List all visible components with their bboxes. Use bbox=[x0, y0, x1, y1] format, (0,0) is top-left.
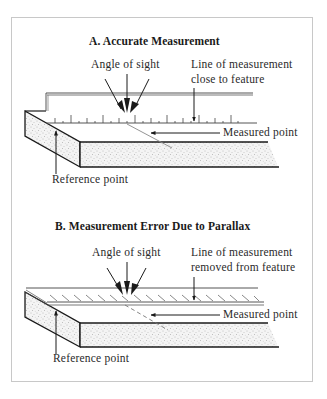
panel-b-line-label-1: Line of measurement bbox=[191, 246, 293, 259]
panel-b-title: B. Measurement Error Due to Parallax bbox=[55, 220, 250, 233]
ruler-on-edge bbox=[46, 93, 257, 123]
workpiece-front-face bbox=[80, 142, 278, 167]
panel-b-measured-label: Measured point bbox=[223, 308, 298, 321]
panel-a-angle-label: Angle of sight bbox=[91, 58, 160, 71]
reference-block-end-face bbox=[25, 111, 80, 167]
parallax-diagram: A. Accurate Measurement Angle of sight L… bbox=[0, 0, 327, 399]
angle-of-sight-arrows-b bbox=[107, 262, 146, 295]
panel-a-reference-label: Reference point bbox=[52, 173, 128, 186]
reference-block-end-face-b bbox=[25, 292, 80, 347]
panel-a-drawing bbox=[25, 74, 279, 174]
panel-b-reference-label: Reference point bbox=[53, 352, 129, 365]
panel-a-line-label-2: close to feature bbox=[191, 73, 264, 86]
panel-b-line-label-2: removed from feature bbox=[191, 261, 295, 274]
panel-a-measured-label: Measured point bbox=[223, 126, 298, 139]
panel-a-title: A. Accurate Measurement bbox=[89, 35, 220, 48]
panel-b-angle-label: Angle of sight bbox=[92, 246, 161, 259]
panel-a-line-label-1: Line of measurement bbox=[191, 58, 293, 71]
ruler-flat bbox=[25, 288, 264, 305]
